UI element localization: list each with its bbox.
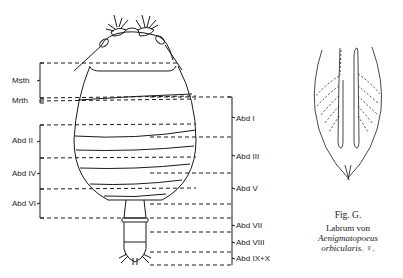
tail-segment-7 [124,200,146,218]
figure-canvas: Msth Mrth Abd II Abd IV Abd VI Abd I Abd… [0,0,403,278]
caption-fig-number: Fig. G. [298,210,398,220]
label-msth: Msth [12,76,29,85]
label-abd9: Abd IX+X [236,254,271,263]
labrum-figure [314,47,381,180]
label-abd3: Abd III [236,152,259,161]
left-brackets [37,63,44,218]
caption-epithet: orbicularis. [321,243,363,253]
left-guides [40,63,196,218]
insect-body [74,15,196,265]
tail-segment-8 [124,222,146,242]
figure-caption: Fig. G. Labrum von Aenigmatopoeus orbicu… [298,210,398,253]
right-brackets [228,97,235,265]
label-mrth: Mrth [12,96,28,105]
label-abd1: Abd I [236,114,255,123]
label-abd2: Abd II [12,136,33,145]
caption-epithet-line: orbicularis. ♀. [298,243,398,253]
labrum-outline [314,47,381,178]
label-abd5: Abd V [236,184,258,193]
label-abd4: Abd IV [12,169,37,178]
right-guides [150,97,232,265]
tail-segment-9 [124,242,147,262]
caption-sex-symbol: ♀. [366,243,375,253]
label-abd7: Abd VII [236,221,262,230]
labrum-right-blade [354,48,359,148]
cephalothorax-outline [101,32,173,60]
head-bristles-icon [106,15,158,36]
caption-species: Aenigmatopoeus [298,233,398,243]
label-abd8: Abd VIII [236,238,264,247]
label-abd6: Abd VI [12,199,36,208]
caption-line-1: Labrum von [298,223,398,233]
furca-bristles-icon [119,254,151,265]
